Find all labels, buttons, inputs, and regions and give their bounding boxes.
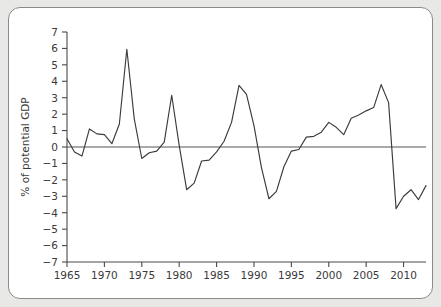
y-tick-label: 5 — [51, 59, 58, 71]
y-tick-label: 7 — [51, 26, 58, 38]
y-tick-label: −6 — [43, 239, 59, 251]
y-tick-label: 2 — [51, 108, 58, 120]
y-tick-label: −4 — [43, 207, 59, 219]
y-tick-label: 1 — [51, 124, 58, 136]
y-tick-label: −1 — [43, 157, 58, 169]
y-tick-label: −2 — [43, 174, 58, 186]
y-axis-ticks: 76543210−1−2−3−4−5−6−7 — [43, 26, 67, 268]
y-tick-label: 3 — [51, 92, 58, 104]
y-tick-label: −3 — [43, 190, 58, 202]
y-axis-title: % of potential GDP — [19, 97, 31, 196]
y-tick-label: 4 — [51, 75, 58, 87]
y-tick-label: 6 — [51, 42, 58, 54]
x-axis-ticks: 1965197019751980198519901995200020052010 — [54, 262, 417, 281]
x-tick-label: 2005 — [353, 269, 380, 281]
x-tick-label: 1970 — [91, 269, 118, 281]
chart-plot-area: 76543210−1−2−3−4−5−6−7 19651970197519801… — [9, 8, 434, 300]
x-tick-label: 1965 — [54, 269, 81, 281]
data-series-output-gap — [67, 49, 426, 208]
x-tick-label: 1980 — [166, 269, 193, 281]
y-tick-label: 0 — [51, 141, 58, 153]
y-tick-label: −5 — [43, 223, 58, 235]
x-tick-label: 1975 — [128, 269, 155, 281]
x-tick-label: 1990 — [241, 269, 268, 281]
output-gap-line-chart: 76543210−1−2−3−4−5−6−7 19651970197519801… — [9, 8, 434, 300]
x-tick-label: 1985 — [203, 269, 230, 281]
figure-card: 76543210−1−2−3−4−5−6−7 19651970197519801… — [8, 7, 433, 299]
y-tick-label: −7 — [43, 256, 58, 268]
x-tick-label: 2000 — [315, 269, 342, 281]
x-tick-label: 2010 — [390, 269, 417, 281]
x-tick-label: 1995 — [278, 269, 305, 281]
